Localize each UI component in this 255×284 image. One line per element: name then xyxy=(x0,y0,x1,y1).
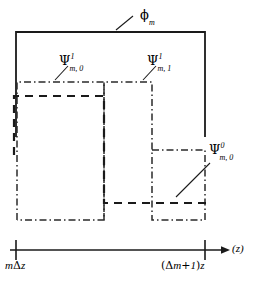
tick-left-m: m xyxy=(5,259,13,271)
label-psi-1-m1: Ψ1m, 1 xyxy=(147,54,176,71)
basis-function-figure: ϕm Ψ1m, 0 Ψ1m, 1 Ψ0m, 0 mΔz (Δm+1)z (z) xyxy=(0,0,255,284)
tick-left-z: z xyxy=(21,259,25,271)
z-axis xyxy=(10,240,230,260)
phi-m-curve xyxy=(16,32,205,136)
phi-glyph: ϕ xyxy=(140,7,149,22)
psi-1-m0-curve xyxy=(17,82,104,220)
axis-variable-label: (z) xyxy=(232,243,244,254)
psi-subscript: m, 1 xyxy=(157,64,171,73)
psi-superscript: 1 xyxy=(158,52,162,61)
psi-superscript: 1 xyxy=(70,52,74,61)
tick-right-z: z xyxy=(200,259,204,271)
tick-left-delta: Δ xyxy=(13,259,21,272)
label-phi-m: ϕm xyxy=(140,8,155,25)
label-psi-0-m0: Ψ0m, 0 xyxy=(209,143,238,160)
phi-m-leader-line xyxy=(116,16,133,30)
psi-1-m1-curve xyxy=(104,82,205,220)
axis-tick-label-right: (Δm+1)z xyxy=(161,260,205,271)
label-psi-1-m0: Ψ1m, 0 xyxy=(59,54,88,71)
phi-subscript: m xyxy=(149,18,155,27)
axis-tick-label-left: mΔz xyxy=(5,260,25,271)
tick-right-m: m xyxy=(173,259,181,271)
z-axis-arrowhead xyxy=(221,246,230,254)
psi-subscript: m, 0 xyxy=(69,64,83,73)
psi-subscript: m, 0 xyxy=(219,153,233,162)
psi-superscript: 0 xyxy=(220,141,224,150)
